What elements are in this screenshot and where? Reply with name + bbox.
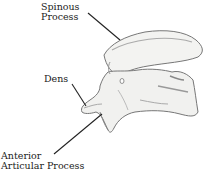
label-dens: Dens — [44, 74, 68, 84]
spinous-leader-line — [88, 13, 120, 40]
label-dens-line1: Dens — [44, 74, 68, 84]
label-anterior-articular-process: Anterior Articular Process — [1, 151, 84, 171]
dens-leader-line — [72, 84, 86, 106]
label-anterior-line2: Articular Process — [1, 161, 84, 171]
anterior-leader-line — [54, 114, 102, 154]
axis-vertebra-drawing — [81, 31, 202, 132]
label-spinous-line2: Process — [41, 12, 79, 22]
vertebra-illustration — [0, 0, 209, 174]
label-spinous-process: Spinous Process — [41, 2, 79, 22]
